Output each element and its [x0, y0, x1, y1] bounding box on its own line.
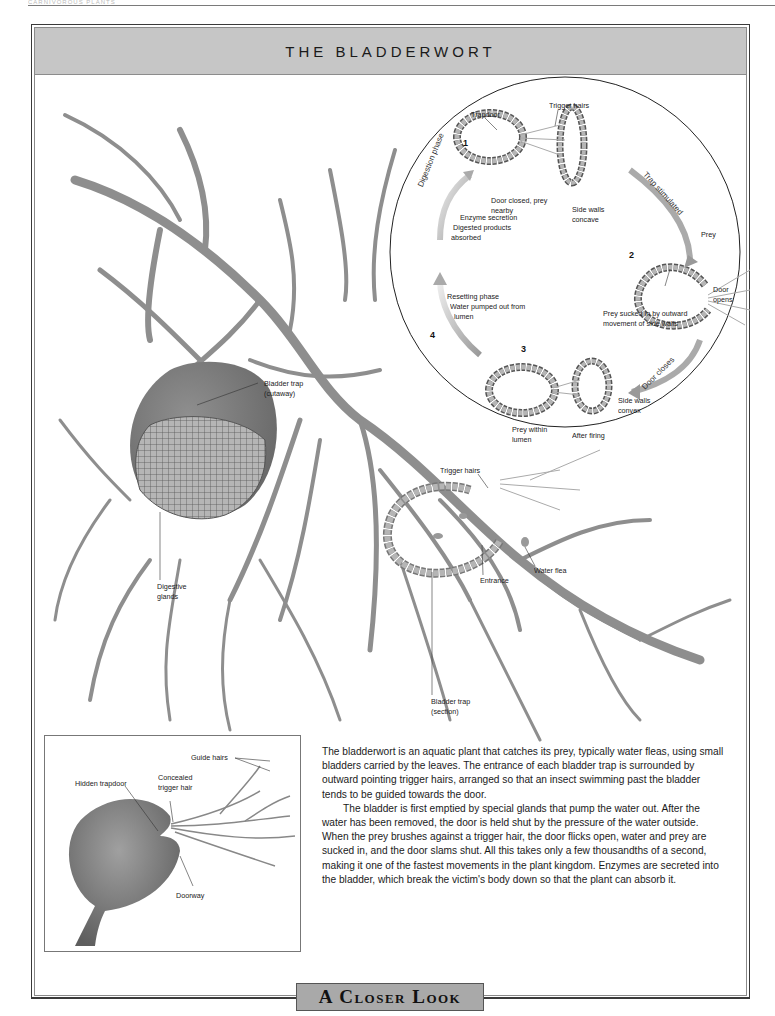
- label-after-firing: After firing: [572, 431, 605, 441]
- label-prey-within-2: lumen: [512, 435, 532, 445]
- paragraph-1: The bladderwort is an aquatic plant that…: [322, 744, 725, 801]
- stage-number-1: 1: [463, 138, 468, 148]
- label-entrance: Entrance: [480, 576, 509, 586]
- label-bladder-trap-section: Bladder trap: [431, 697, 470, 707]
- label-concealed-trigger-hair: Concealed: [158, 773, 192, 783]
- label-digested-products: Digested products: [453, 223, 511, 233]
- label-lumen: lumen: [454, 312, 474, 322]
- label-side-walls-convex-2: convex: [618, 406, 641, 416]
- inset-bladder: [69, 799, 180, 946]
- footer-tab: A Closer Look: [296, 983, 484, 1011]
- label-side-walls-concave-2: concave: [572, 215, 599, 225]
- label-absorbed: absorbed: [451, 233, 481, 243]
- stage-number-3: 3: [521, 344, 526, 354]
- label-bladder-trap-cutaway-2: (cutaway): [264, 389, 295, 399]
- label-water-pumped: Water pumped out from: [450, 302, 525, 312]
- footer-rule-left: [31, 997, 296, 999]
- inset-illustration: [45, 736, 300, 951]
- paragraph-2: The bladder is first emptied by special …: [322, 801, 725, 886]
- label-side-walls-concave: Side walls: [572, 205, 604, 215]
- label-trigger-hairs: Trigger hairs: [440, 466, 480, 476]
- label-prey: Prey: [701, 230, 716, 240]
- label-prey-sucked: Prey sucked in by outward: [603, 309, 687, 319]
- label-prey-within: Prey within: [512, 425, 547, 435]
- label-door-opens-2: opens: [713, 295, 733, 305]
- body-text: The bladderwort is an aquatic plant that…: [322, 744, 725, 886]
- life-cycle-diagram: [390, 77, 750, 510]
- label-side-walls-convex: Side walls: [618, 396, 650, 406]
- label-digestive-glands: Digestive: [157, 582, 187, 592]
- stage-number-4: 4: [430, 330, 435, 340]
- label-door-closed: Door closed, prey: [491, 196, 547, 206]
- bladder-trap-cutaway: [130, 362, 277, 519]
- label-resetting-phase: Resetting phase: [447, 292, 499, 302]
- label-guide-hairs: Guide hairs: [191, 753, 228, 763]
- label-bladder-trap-cutaway: Bladder trap: [264, 379, 303, 389]
- label-trigger-hairs-top: Trigger hairs: [549, 101, 589, 111]
- label-hidden-trapdoor: Hidden trapdoor: [75, 779, 127, 789]
- footer-tab-label: A Closer Look: [319, 986, 461, 1008]
- label-prey-sucked-2: movement of side walls: [603, 319, 678, 329]
- label-concealed-trigger-hair-2: trigger hair: [158, 783, 192, 793]
- label-enzyme-secretion: Enzyme secretion: [460, 213, 517, 223]
- stage-number-2: 2: [629, 250, 634, 260]
- label-trapdoor: Trapdoor: [471, 110, 500, 120]
- label-doorway: Doorway: [176, 891, 204, 901]
- label-door-opens: Door: [713, 285, 729, 295]
- label-water-flea: Water flea: [534, 566, 567, 576]
- inset-bladder-exterior: Guide hairs Hidden trapdoor Concealed tr…: [44, 735, 301, 952]
- footer-rule-right: [484, 997, 750, 999]
- label-digestive-glands-2: glands: [157, 592, 178, 602]
- label-bladder-trap-section-2: (section): [431, 707, 459, 717]
